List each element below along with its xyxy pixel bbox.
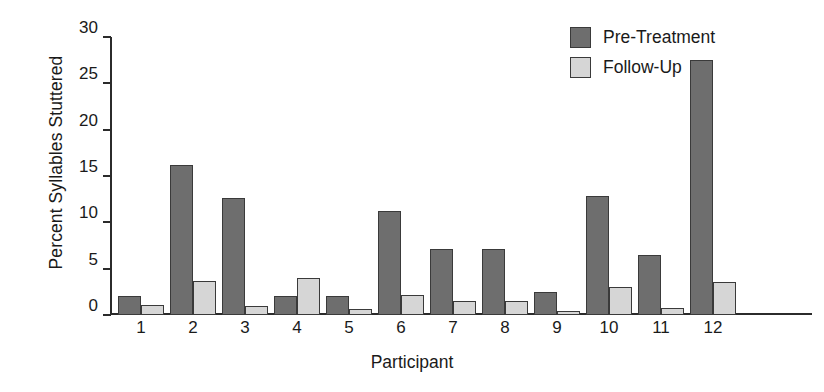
y-axis-tick-label: 5 [40, 251, 98, 268]
x-axis-tick-label: 7 [423, 318, 483, 338]
legend-label-pre-treatment: Pre-Treatment [603, 27, 715, 48]
bar-pre-treatment-p6 [378, 211, 401, 315]
legend: Pre-Treatment Follow-Up [570, 22, 715, 82]
bar-pre-treatment-p1 [118, 296, 141, 315]
x-axis-tick-label: 8 [475, 318, 535, 338]
x-axis-tick-label: 4 [267, 318, 327, 338]
bar-follow-up-p6 [401, 295, 424, 315]
legend-entry-pre-treatment: Pre-Treatment [570, 22, 715, 52]
bar-pre-treatment-p3 [222, 198, 245, 315]
bar-group [430, 37, 476, 315]
bar-pre-treatment-p9 [534, 292, 557, 315]
x-axis-tick-label: 12 [683, 318, 743, 338]
bar-pre-treatment-p2 [170, 165, 193, 315]
bar-group [170, 37, 216, 315]
bar-follow-up-p3 [245, 306, 268, 315]
bar-pre-treatment-p7 [430, 249, 453, 315]
x-axis-tick-label: 2 [163, 318, 223, 338]
bar-pre-treatment-p4 [274, 296, 297, 315]
bar-follow-up-p1 [141, 305, 164, 315]
x-axis-tick-label: 3 [215, 318, 275, 338]
y-axis-tick-label: 25 [40, 65, 98, 82]
bar-follow-up-p4 [297, 278, 320, 315]
y-axis-tick-label: 20 [40, 112, 98, 129]
bar-pre-treatment-p5 [326, 296, 349, 315]
bar-pre-treatment-p10 [586, 196, 609, 315]
bar-pre-treatment-p11 [638, 255, 661, 315]
bar-group [326, 37, 372, 315]
bar-group [222, 37, 268, 315]
bar-follow-up-p9 [557, 311, 580, 315]
dark-gray-swatch-icon [570, 27, 591, 48]
bar-pre-treatment-p8 [482, 249, 505, 315]
bar-group [274, 37, 320, 315]
x-axis-tick-label: 6 [371, 318, 431, 338]
y-axis-tick-label: 30 [40, 19, 98, 36]
x-axis-tick-label: 11 [631, 318, 691, 338]
y-axis-tick-label: 0 [40, 297, 98, 314]
bar-follow-up-p10 [609, 287, 632, 315]
legend-entry-follow-up: Follow-Up [570, 52, 715, 82]
bar-follow-up-p5 [349, 309, 372, 315]
bar-follow-up-p2 [193, 281, 216, 315]
bar-group [118, 37, 164, 315]
bar-chart-figure: Percent Syllables Stuttered 051015202530… [0, 0, 824, 392]
bar-group [482, 37, 528, 315]
x-axis-tick-label: 10 [579, 318, 639, 338]
y-axis-tick-label: 10 [40, 204, 98, 221]
light-gray-swatch-icon [570, 57, 591, 78]
bar-follow-up-p7 [453, 301, 476, 315]
x-axis-title: Participant [0, 352, 824, 373]
x-axis-tick-label: 9 [527, 318, 587, 338]
y-axis-tick-label: 15 [40, 158, 98, 175]
x-axis-tick-label: 5 [319, 318, 379, 338]
bar-pre-treatment-p12 [690, 60, 713, 315]
bar-follow-up-p11 [661, 308, 684, 315]
legend-label-follow-up: Follow-Up [603, 57, 682, 78]
bar-group [378, 37, 424, 315]
bar-follow-up-p12 [713, 282, 736, 315]
bar-follow-up-p8 [505, 301, 528, 315]
x-axis-tick-label: 1 [111, 318, 171, 338]
